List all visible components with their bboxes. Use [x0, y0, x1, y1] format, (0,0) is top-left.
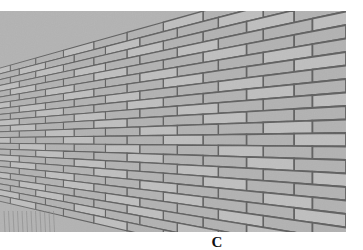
figure-caption-label: C — [206, 234, 228, 250]
brick-wall-photo — [0, 11, 346, 232]
brick-wall-image — [0, 11, 346, 232]
